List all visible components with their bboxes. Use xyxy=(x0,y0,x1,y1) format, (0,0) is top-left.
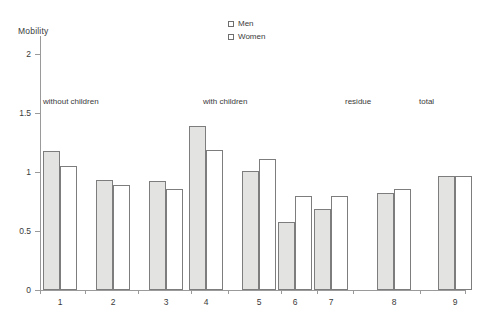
bar-women-1 xyxy=(60,166,77,290)
bar-women-2 xyxy=(113,185,130,290)
x-tick-label: 1 xyxy=(48,297,72,307)
bar-women-6 xyxy=(295,196,312,290)
y-tick-label-text: 0.5 xyxy=(5,226,31,236)
y-tick-label-text: 0 xyxy=(5,285,31,295)
group-label-without-children: without children xyxy=(43,97,99,106)
y-axis-title: Mobility xyxy=(18,26,48,36)
x-tick-mark xyxy=(85,290,86,294)
bar-women-7 xyxy=(331,196,348,290)
legend-swatch-icon xyxy=(228,34,234,40)
bar-men-6 xyxy=(278,222,295,290)
y-tick-mark xyxy=(35,54,40,55)
bar-women-4 xyxy=(206,150,223,290)
y-tick-label: 1.5 xyxy=(0,108,31,118)
bar-women-5 xyxy=(259,159,276,290)
x-tick-label: 2 xyxy=(101,297,125,307)
x-tick-mark xyxy=(465,290,466,294)
mobility-bar-chart: Mobility 00.511.52 without childrenwith … xyxy=(0,0,483,319)
x-tick-label: 4 xyxy=(194,297,218,307)
y-tick-label: 2 xyxy=(0,49,31,59)
legend-label: Women xyxy=(238,32,265,41)
group-label-residue: residue xyxy=(345,97,371,106)
x-tick-label: 6 xyxy=(283,297,307,307)
x-tick-label: 7 xyxy=(319,297,343,307)
x-tick-label: 5 xyxy=(247,297,271,307)
y-axis-line xyxy=(40,36,41,291)
y-tick-label: 0 xyxy=(0,285,31,295)
y-tick-label-text: 1 xyxy=(5,167,31,177)
legend: MenWomen xyxy=(228,17,265,43)
x-tick-mark xyxy=(420,290,421,294)
bar-men-8 xyxy=(377,193,394,290)
y-tick-mark xyxy=(35,231,40,232)
y-tick-mark xyxy=(35,113,40,114)
bar-men-7 xyxy=(314,209,331,290)
x-tick-mark xyxy=(191,290,192,294)
y-tick-mark xyxy=(35,172,40,173)
bar-men-9 xyxy=(438,176,455,290)
y-tick-label-text: 1.5 xyxy=(5,108,31,118)
x-axis-line xyxy=(40,290,465,291)
bar-men-3 xyxy=(149,181,166,290)
bar-women-3 xyxy=(166,189,183,290)
x-tick-mark xyxy=(317,290,318,294)
x-tick-mark xyxy=(228,290,229,294)
x-tick-mark xyxy=(281,290,282,294)
legend-item-women: Women xyxy=(228,30,265,43)
bar-men-5 xyxy=(242,171,259,290)
x-tick-mark xyxy=(40,290,41,294)
x-tick-label: 8 xyxy=(382,297,406,307)
group-label-with-children: with children xyxy=(203,97,247,106)
bar-women-9 xyxy=(455,176,472,290)
x-tick-label: 9 xyxy=(443,297,467,307)
legend-item-men: Men xyxy=(228,17,265,30)
legend-label: Men xyxy=(238,19,254,28)
group-label-total: total xyxy=(419,97,434,106)
y-tick-label-text: 2 xyxy=(5,49,31,59)
bar-men-4 xyxy=(189,126,206,290)
legend-swatch-icon xyxy=(228,21,234,27)
bar-women-8 xyxy=(394,189,411,290)
bar-men-2 xyxy=(96,180,113,290)
x-tick-mark xyxy=(138,290,139,294)
x-tick-mark xyxy=(353,290,354,294)
y-tick-label: 0.5 xyxy=(0,226,31,236)
bar-men-1 xyxy=(43,151,60,290)
x-tick-label: 3 xyxy=(154,297,178,307)
y-tick-label: 1 xyxy=(0,167,31,177)
